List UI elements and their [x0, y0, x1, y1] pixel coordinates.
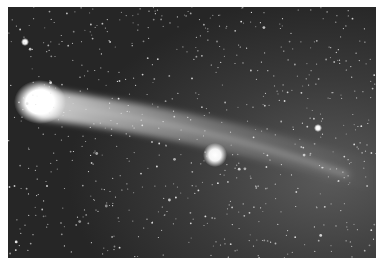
star-right — [314, 124, 322, 132]
comet-photograph — [8, 7, 376, 258]
bright-star — [203, 143, 227, 167]
star-top-left — [21, 38, 29, 46]
starfield-canvas — [8, 7, 376, 258]
comet-tail — [38, 87, 376, 192]
